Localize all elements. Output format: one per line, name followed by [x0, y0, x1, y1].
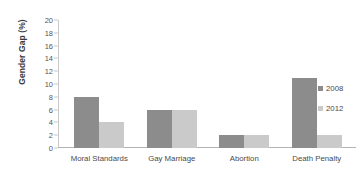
bar-chart: Gender Gap (%) 20181614121086420 Moral S…	[0, 0, 363, 170]
bars-layer	[58, 20, 348, 148]
plot-area: 20181614121086420	[58, 20, 348, 148]
bar-2012-death-penalty[interactable]	[317, 135, 342, 148]
legend-label: 2008	[326, 84, 343, 93]
bar-2008-abortion[interactable]	[219, 135, 244, 148]
y-axis-title: Gender Gap (%)	[17, 0, 27, 112]
x-axis-label-death-penalty: Death Penalty	[272, 154, 362, 163]
bar-2012-abortion[interactable]	[244, 135, 269, 148]
bar-2012-gay-marriage[interactable]	[172, 110, 197, 148]
chart-legend: 20082012	[318, 84, 343, 124]
bar-2008-gay-marriage[interactable]	[147, 110, 172, 148]
bar-group	[219, 20, 269, 148]
legend-item-2008[interactable]: 2008	[318, 84, 343, 93]
legend-label: 2012	[326, 104, 343, 113]
legend-swatch-icon	[318, 86, 323, 91]
bar-2008-death-penalty[interactable]	[292, 78, 317, 148]
bar-group	[147, 20, 197, 148]
bar-2012-moral-standards[interactable]	[99, 122, 124, 148]
legend-item-2012[interactable]: 2012	[318, 104, 343, 113]
bar-2008-moral-standards[interactable]	[74, 97, 99, 148]
legend-swatch-icon	[318, 106, 323, 111]
bar-group	[74, 20, 124, 148]
